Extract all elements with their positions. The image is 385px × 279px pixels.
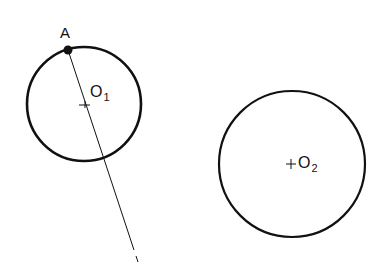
line-l-tail [136, 256, 138, 262]
label-o2-letter: O [298, 154, 310, 171]
geometry-diagram: A O1 O2 [0, 0, 385, 279]
line-l [68, 50, 134, 250]
label-o2-sub: 2 [311, 162, 317, 174]
diagram-svg [0, 0, 385, 279]
point-a-dot [64, 46, 73, 55]
label-center-o2: O2 [298, 155, 318, 171]
label-center-o1: O1 [90, 84, 110, 100]
center2-cross-icon [286, 159, 296, 169]
center1-cross-icon [79, 101, 90, 108]
label-point-a: A [60, 25, 70, 40]
label-o1-letter: O [90, 83, 102, 100]
label-o1-sub: 1 [103, 91, 109, 103]
circle-o1 [27, 47, 141, 161]
